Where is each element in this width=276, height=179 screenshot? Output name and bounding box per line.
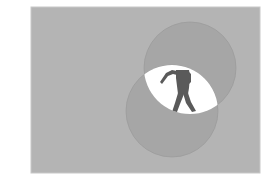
illustration [0, 0, 276, 179]
figure-torso [176, 70, 190, 94]
